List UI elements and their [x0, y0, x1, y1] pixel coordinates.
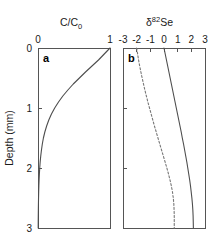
- panel-b-xtick-label: 1: [175, 34, 181, 45]
- panel-b-xtick-label: -2: [132, 34, 141, 45]
- y-axis-title: Depth (mm): [3, 110, 15, 165]
- panel-b-tick-labels: -3-2-10123: [119, 34, 209, 45]
- panel-a-xtick-label: 1: [107, 34, 113, 45]
- panel-b-curve-dashed: [137, 48, 175, 228]
- panel-b-curves: [137, 48, 194, 228]
- ytick-label: 1: [26, 103, 32, 114]
- panel-a: 010123 a: [26, 34, 113, 234]
- panel-b-xtick-label: 3: [202, 34, 208, 45]
- panel-a-tick-labels: 010123: [26, 34, 113, 234]
- panel-b-xtick-label: -1: [146, 34, 155, 45]
- panel-b-x-axis-title: δ82Se: [146, 15, 173, 28]
- panel-a-tag: a: [43, 52, 50, 64]
- panel-a-x-axis-title: C/C0: [60, 16, 82, 31]
- panel-b-curve-solid: [164, 48, 193, 228]
- ytick-label: 2: [26, 163, 32, 174]
- panel-a-x-axis-title-main: C/C: [60, 16, 79, 28]
- panel-a-axes: [38, 48, 110, 228]
- panel-b-tag: b: [128, 52, 135, 64]
- panel-b: -3-2-10123 b: [119, 34, 209, 228]
- depth-profile-figure: C/C0 δ82Se Depth (mm) 010123 a -3-2-1012…: [0, 0, 215, 247]
- panel-b-x-axis-title-element: Se: [160, 16, 173, 28]
- panel-b-xtick-label: 0: [161, 34, 167, 45]
- ytick-label: 0: [26, 43, 32, 54]
- panel-a-ticks: [38, 48, 110, 228]
- panel-b-xtick-label: 2: [189, 34, 195, 45]
- panel-a-curve-solid: [38, 48, 110, 228]
- ytick-label: 3: [26, 223, 32, 234]
- panel-b-xtick-label: -3: [119, 34, 128, 45]
- panel-a-curves: [38, 48, 110, 228]
- figure-container: C/C0 δ82Se Depth (mm) 010123 a -3-2-1012…: [0, 0, 215, 247]
- panel-a-xtick-label: 0: [35, 34, 41, 45]
- panel-a-x-axis-title-sub: 0: [78, 22, 82, 31]
- panel-b-x-axis-title-superscript: 82: [152, 15, 160, 24]
